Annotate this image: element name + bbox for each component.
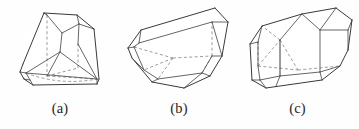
- crystal-diagram-a: [0, 0, 120, 100]
- figure-caption-c: (c): [236, 101, 359, 116]
- figure-panel-b: (b): [118, 0, 240, 129]
- crystal-c-faces: [250, 8, 352, 88]
- figure-caption-b: (b): [118, 101, 240, 116]
- figure-panel-a: (a): [0, 0, 120, 129]
- crystal-diagram-b: [118, 0, 240, 100]
- crystal-diagram-c: [236, 0, 359, 100]
- crystal-habit-figure-plate: (a): [0, 0, 359, 129]
- figure-panel-c: (c): [236, 0, 359, 129]
- figure-caption-a: (a): [0, 101, 120, 116]
